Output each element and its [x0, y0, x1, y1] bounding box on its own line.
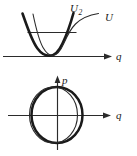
q-axis-label-top: q — [116, 50, 122, 62]
q-axis-top-arrowhead — [104, 54, 112, 60]
potential-energy-panel: U 2 U q — [3, 2, 122, 62]
q-axis-label-bottom: q — [116, 109, 122, 121]
p-axis-label: p — [61, 74, 68, 86]
q-axis-bottom — [8, 113, 111, 119]
figure-container: U 2 U q p — [0, 0, 137, 156]
curve-u2-thick — [23, 13, 74, 56]
phase-space-panel: p q — [8, 74, 122, 150]
curve-label-u: U — [105, 11, 114, 23]
q-axis-bottom-arrowhead — [103, 113, 111, 119]
physics-figure: U 2 U q p — [0, 0, 137, 156]
curve-label-u2-subscript: 2 — [79, 8, 83, 17]
q-axis-top — [3, 54, 112, 60]
p-axis-arrowhead — [55, 76, 61, 84]
